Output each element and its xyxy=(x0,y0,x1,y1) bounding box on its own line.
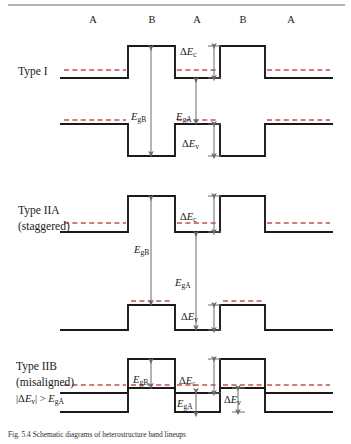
row-type-i: Type I ΔEc EgB EgA ΔEv xyxy=(18,46,333,156)
row-labels-type-iia: Type IIA (staggered) ΔEc EgB EgA ΔEv xyxy=(18,204,198,324)
caption-text: Fig. 5.4 Schematic diagrams of heterostr… xyxy=(8,430,186,439)
region-label-b1: B xyxy=(148,14,155,25)
figure-caption: Fig. 5.4 Schematic diagrams of heterostr… xyxy=(8,430,344,444)
row-title-type-iib: Type IIB xyxy=(16,360,57,373)
label-ega-type-i: EgA xyxy=(175,111,192,124)
label-delta-ec-type-iib: ΔEc xyxy=(179,375,196,388)
row-type-iib: Type IIB (misaligned) |ΔEv| > EgA EgB ΔE… xyxy=(16,359,333,414)
row-subtitle-type-iib: (misaligned) xyxy=(16,376,74,389)
conduction-band-type-iia xyxy=(60,196,333,232)
label-delta-ev-type-i: ΔEv xyxy=(182,138,199,151)
region-label-a3: A xyxy=(287,14,295,25)
label-delta-ec-type-i: ΔEc xyxy=(180,46,197,59)
row-condition-type-iib: |ΔEv| > EgA xyxy=(16,393,65,406)
row-labels-type-i: Type I ΔEc EgB EgA ΔEv xyxy=(18,46,199,151)
label-ega-type-iib: EgA xyxy=(176,398,193,411)
region-label-b2: B xyxy=(239,14,246,25)
row-title-type-iia: Type IIA xyxy=(18,204,60,217)
band-lineup-figure: A B A B A xyxy=(0,0,351,444)
label-egb-type-iia: EgB xyxy=(133,244,149,257)
label-ega-type-iia: EgA xyxy=(174,277,191,290)
row-type-iia: Type IIA (staggered) ΔEc EgB EgA ΔEv xyxy=(18,196,333,330)
region-label-a1: A xyxy=(89,14,97,25)
level-lines-type-iia xyxy=(64,223,330,301)
label-egb-type-i: EgB xyxy=(130,111,146,124)
region-labels: A B A B A xyxy=(89,14,295,25)
label-delta-ev-type-iib: ΔEv xyxy=(224,394,241,407)
region-label-a2: A xyxy=(193,14,201,25)
row-subtitle-type-iia: (staggered) xyxy=(18,220,70,233)
conduction-band-type-iib xyxy=(60,359,333,393)
row-title-type-i: Type I xyxy=(18,65,48,78)
